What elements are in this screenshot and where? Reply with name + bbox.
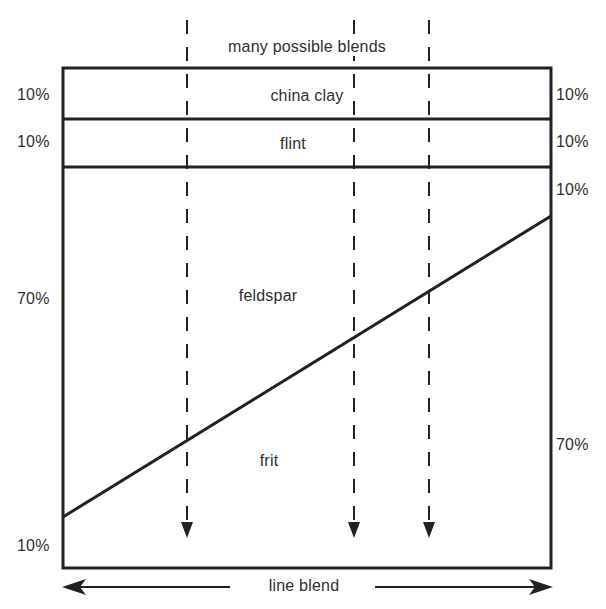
arrow-down-icon xyxy=(423,522,435,538)
left-pct-frit: 10% xyxy=(17,537,50,555)
layer-label-flint: flint xyxy=(274,135,312,153)
left-pct-feldspar: 70% xyxy=(17,290,50,308)
left-pct-flint: 10% xyxy=(17,133,50,151)
line-blend-label: line blend xyxy=(269,577,340,595)
right-pct-flint: 10% xyxy=(556,133,589,151)
feldspar-frit-boundary xyxy=(63,216,551,517)
layer-label-frit: frit xyxy=(260,452,279,470)
left-pct-china-clay: 10% xyxy=(17,86,50,104)
arrow-down-icon xyxy=(348,522,360,538)
right-pct-china-clay: 10% xyxy=(556,86,589,104)
right-pct-frit: 70% xyxy=(556,436,589,454)
diagram-title: many possible blends xyxy=(222,38,392,56)
layer-label-feldspar: feldspar xyxy=(239,287,298,305)
right-pct-feldspar: 10% xyxy=(556,181,589,199)
arrow-down-icon xyxy=(181,522,193,538)
layer-label-china-clay: china clay xyxy=(264,87,349,105)
